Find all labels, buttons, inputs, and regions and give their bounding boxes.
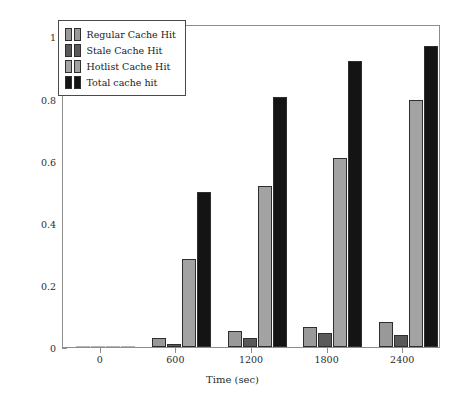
bar (273, 97, 287, 347)
bar (152, 338, 166, 347)
legend-swatch-icon (65, 76, 72, 89)
x-tick-mark (402, 348, 403, 353)
bar (318, 333, 332, 347)
legend-swatch-icon (65, 60, 72, 73)
x-tick-mark (175, 348, 176, 353)
y-tick-label: 0 (20, 343, 56, 354)
legend-swatch-icon (74, 44, 81, 57)
x-tick-mark (100, 348, 101, 353)
y-tick-label: 0.2 (20, 280, 56, 291)
bar (243, 338, 257, 347)
bar (197, 192, 211, 347)
bar (379, 322, 393, 347)
x-axis-label: Time (sec) (0, 374, 465, 385)
bar (348, 61, 362, 347)
x-tick-label: 2400 (372, 354, 432, 365)
bar (91, 346, 105, 347)
legend-item: Total cache hit (65, 74, 176, 90)
bar (409, 100, 423, 347)
x-tick-label: 0 (70, 354, 130, 365)
bar (228, 331, 242, 347)
legend-swatch-icon (65, 28, 72, 41)
legend-label: Hotlist Cache Hit (87, 61, 171, 72)
x-tick-mark (251, 348, 252, 353)
y-tick-label: 1 (20, 32, 56, 43)
bar (258, 186, 272, 348)
bar (182, 259, 196, 348)
bar (424, 46, 438, 347)
bar (394, 335, 408, 347)
y-tick-mark (62, 348, 67, 349)
legend-label: Regular Cache Hit (87, 29, 176, 40)
legend-item: Hotlist Cache Hit (65, 58, 176, 74)
y-tick-label: 0.4 (20, 218, 56, 229)
legend-swatch-icon (74, 28, 81, 41)
bar (333, 158, 347, 347)
legend-swatch-icon (74, 76, 81, 89)
x-tick-label: 1800 (297, 354, 357, 365)
chart-page: Cache response (%) 00.20.40.60.81 060012… (0, 0, 465, 414)
legend-label: Total cache hit (87, 77, 158, 88)
x-tick-label: 1200 (221, 354, 281, 365)
bar (106, 346, 120, 347)
bar (303, 327, 317, 347)
bar (167, 344, 181, 347)
y-tick-label: 0.8 (20, 94, 56, 105)
x-tick-label: 600 (145, 354, 205, 365)
legend-label: Stale Cache Hit (87, 45, 163, 56)
legend-swatch-icon (74, 60, 81, 73)
legend-item: Stale Cache Hit (65, 42, 176, 58)
bar (76, 346, 90, 347)
x-tick-mark (327, 348, 328, 353)
legend-item: Regular Cache Hit (65, 26, 176, 42)
y-tick-label: 0.6 (20, 156, 56, 167)
chart-legend: Regular Cache HitStale Cache HitHotlist … (58, 20, 186, 96)
legend-swatch-icon (65, 44, 72, 57)
bar (121, 346, 135, 347)
